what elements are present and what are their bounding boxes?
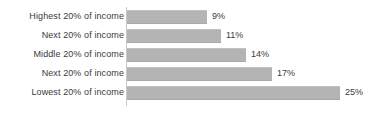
category-label: Next 20% of income [0, 68, 124, 78]
bar-chart: Highest 20% of income 9% Next 20% of inc… [0, 0, 382, 113]
bar-segment [127, 10, 207, 24]
bar-segment [127, 48, 246, 62]
bar-value-label: 14% [251, 49, 269, 59]
category-label: Middle 20% of income [0, 49, 124, 59]
bar-value-label: 25% [345, 87, 363, 97]
category-label: Lowest 20% of income [0, 87, 124, 97]
chart-row: Middle 20% of income 14% [0, 46, 382, 65]
bar-value-label: 11% [226, 30, 243, 40]
bar-segment [127, 29, 221, 43]
category-label: Next 20% of income [0, 30, 124, 40]
chart-row: Next 20% of income 11% [0, 27, 382, 46]
bar-value-label: 17% [277, 68, 295, 78]
plot-area: Highest 20% of income 9% Next 20% of inc… [0, 0, 382, 113]
bar-segment [127, 67, 272, 81]
category-label: Highest 20% of income [0, 11, 124, 21]
bar-value-label: 9% [212, 11, 225, 21]
bar-segment [127, 86, 340, 100]
chart-row: Highest 20% of income 9% [0, 8, 382, 27]
chart-row: Lowest 20% of income 25% [0, 84, 382, 103]
chart-row: Next 20% of income 17% [0, 65, 382, 84]
